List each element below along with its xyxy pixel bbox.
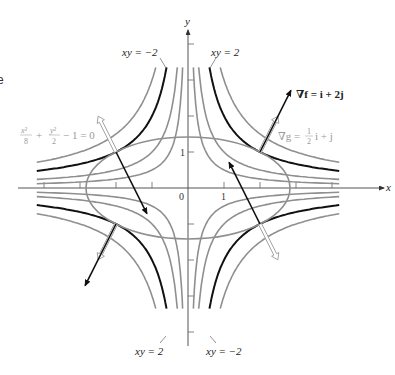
constraint-x-num: x² [20, 126, 28, 135]
label-xy-neg2-top: xy = −2 [121, 46, 158, 58]
level-curve-xy-1 [37, 197, 178, 309]
constraint-y-den: 2 [52, 137, 56, 146]
constraint-rest: − 1 = 0 [63, 129, 95, 141]
leader-xy-2-top [210, 58, 216, 68]
leader-xy-2-bottom [160, 336, 166, 343]
constraint-equation-label: x² 8 + y² 2 − 1 = 0 [20, 126, 95, 146]
grad-f-arrow [229, 162, 260, 224]
leader-xy-neg2-bottom [210, 336, 216, 343]
label-xy-2-top: xy = 2 [210, 46, 240, 58]
level-curve-xy-0.5 [193, 67, 339, 183]
y-tick-label-1: 1 [180, 147, 185, 158]
x-tick-label-1: 1 [221, 191, 226, 202]
constraint-plus: + [36, 129, 42, 141]
x-axis-label: x [385, 181, 391, 193]
y-axis-label: y [184, 15, 190, 27]
grad-g-frac-den: 2 [307, 137, 311, 146]
level-curve-xy-neg1 [199, 197, 340, 309]
grad-g-suffix: i + j [315, 130, 333, 142]
grad-g-frac-num: 1 [307, 127, 311, 136]
grad-g-label: ∇g = 1 2 i + j [278, 127, 333, 146]
constraint-x-den: 8 [24, 137, 28, 146]
label-xy-neg2-bottom: xy = −2 [205, 345, 242, 357]
level-curve-xy-neg0.5 [193, 192, 339, 308]
lagrange-multiplier-diagram: x y 0 1 1 xy = −2 xy = 2 xy = 2 xy = −2 … [0, 0, 395, 375]
grad-f-label: ∇f = i + 2j [296, 88, 344, 100]
label-xy-2-bottom: xy = 2 [134, 345, 164, 357]
level-curve-xy-1 [199, 67, 340, 179]
origin-label: 0 [179, 191, 184, 202]
level-curve-xy-3 [37, 214, 156, 309]
grad-f-arrow [116, 152, 147, 214]
level-curve-xy-0.5 [37, 192, 183, 308]
level-curve-xy-neg0.5 [37, 67, 183, 183]
level-curve-xy-3 [220, 67, 339, 162]
level-curve-xy-neg3 [37, 67, 156, 162]
level-curve-xy-neg3 [220, 214, 339, 309]
leader-xy-neg2-top [160, 58, 166, 68]
grad-g-prefix: ∇g = [278, 130, 300, 142]
level-curve-xy-neg1 [37, 67, 178, 179]
constraint-y-num: y² [49, 126, 57, 135]
axes [18, 30, 384, 346]
